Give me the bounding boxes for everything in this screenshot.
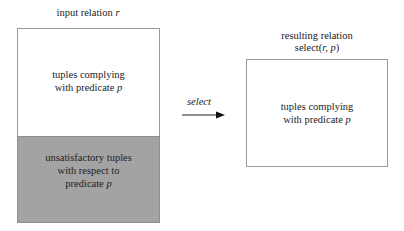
result-title-func: select( [295,42,322,53]
unsatisfactory-line1: unsatisfactory tuples [18,151,159,164]
result-title-close: ) [336,42,340,53]
input-relation-title-text: input relation [57,7,116,18]
complying-line2-text: with predicate [55,82,117,93]
select-operation-label: select [187,96,211,107]
complying-line1: tuples complying [18,68,159,81]
result-complying-tuples-text: tuples complying with predicate p [247,100,387,126]
arrow-right-icon [180,110,228,120]
result-title-args: r, p [322,42,335,53]
predicate-variable: p [117,82,122,93]
unsatisfactory-line2: with respect to [18,164,159,177]
predicate-variable: p [106,178,111,189]
input-relation-title: input relation r [17,7,159,19]
unsatisfactory-line3: predicate p [18,177,159,190]
result-relation-box: tuples complying with predicate p [246,59,388,167]
result-complying-line2-text: with predicate [283,114,345,125]
unsatisfactory-line3-text: predicate [65,178,106,189]
complying-line2: with predicate p [18,81,159,94]
result-relation-title: resulting relation select(r, p) [246,30,388,54]
predicate-variable: p [346,114,351,125]
result-title-line1: resulting relation [246,30,388,42]
result-complying-line2: with predicate p [247,113,387,126]
unsatisfactory-tuples-text: unsatisfactory tuples with respect to pr… [18,151,159,190]
complying-tuples-text: tuples complying with predicate p [18,68,159,94]
result-complying-line1: tuples complying [247,100,387,113]
result-title-line2: select(r, p) [246,42,388,54]
unsatisfactory-tuples-region: unsatisfactory tuples with respect to pr… [17,136,160,223]
input-relation-variable: r [115,7,119,18]
